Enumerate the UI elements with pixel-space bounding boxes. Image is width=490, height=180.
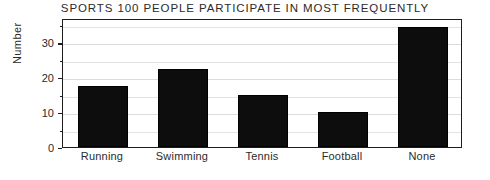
y-tick-label: 10 — [26, 108, 54, 118]
bar-series — [63, 20, 461, 147]
bar-chart-figure: SPORTS 100 PEOPLE PARTICIPATE IN MOST FR… — [0, 0, 490, 180]
x-tick-label-none: None — [382, 150, 462, 162]
bar-swimming[interactable] — [158, 69, 208, 147]
y-tick-mark — [58, 148, 62, 149]
y-tick-label: 30 — [26, 38, 54, 48]
chart-title: SPORTS 100 PEOPLE PARTICIPATE IN MOST FR… — [0, 2, 490, 14]
bar-tennis[interactable] — [238, 95, 288, 147]
plot-area — [62, 19, 462, 148]
y-tick-label: 20 — [26, 73, 54, 83]
y-axis-ticks: 0102030 — [0, 19, 62, 148]
x-tick-label-running: Running — [62, 150, 142, 162]
y-tick-label: 0 — [26, 143, 54, 153]
x-axis-labels: RunningSwimmingTennisFootballNone — [62, 150, 462, 168]
bar-none[interactable] — [398, 27, 448, 147]
x-tick-label-swimming: Swimming — [142, 150, 222, 162]
x-tick-label-football: Football — [302, 150, 382, 162]
x-tick-label-tennis: Tennis — [222, 150, 302, 162]
bar-running[interactable] — [78, 86, 128, 147]
bar-football[interactable] — [318, 112, 368, 147]
